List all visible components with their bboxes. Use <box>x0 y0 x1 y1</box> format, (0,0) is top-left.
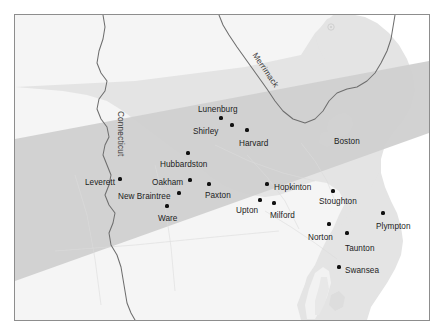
place-dot <box>245 128 248 131</box>
place-label: Boston <box>334 138 360 146</box>
place-label: Lunenburg <box>198 106 238 114</box>
place-label: Plympton <box>376 223 411 231</box>
place-label: Swansea <box>345 267 379 275</box>
place-label: Ware <box>158 215 177 223</box>
place-dot <box>331 189 334 192</box>
place-label: Paxton <box>205 192 231 200</box>
place-dot <box>219 116 222 119</box>
place-label: Hubbardston <box>160 161 207 169</box>
place-dot <box>177 191 180 194</box>
place-label: Milford <box>270 212 295 220</box>
place-label: Norton <box>308 234 333 242</box>
place-dot <box>186 151 189 154</box>
place-label: Upton <box>236 207 258 215</box>
place-label: Taunton <box>345 245 375 253</box>
place-dot <box>327 222 330 225</box>
place-dot <box>188 178 191 181</box>
place-label: Oakham <box>152 179 183 187</box>
place-dot <box>207 182 210 185</box>
place-dot <box>272 201 275 204</box>
place-label: Shirley <box>193 128 218 136</box>
place-dot <box>381 211 384 214</box>
place-label: Leverett <box>85 179 115 187</box>
place-dot <box>345 231 348 234</box>
place-label: Stoughton <box>319 198 357 206</box>
place-label: Hopkinton <box>274 184 311 192</box>
map-figure: LunenburgShirleyHarvardBostonHubbardston… <box>0 0 444 335</box>
place-dot <box>165 204 168 207</box>
place-dot <box>337 265 340 268</box>
place-dot <box>230 123 233 126</box>
place-dot <box>118 177 121 180</box>
river-label-connecticut: Connecticut <box>116 111 125 156</box>
place-label: Harvard <box>239 140 268 148</box>
place-dot <box>258 198 261 201</box>
place-label: New Braintree <box>118 193 171 201</box>
map-ring-marker-core <box>330 26 332 28</box>
place-dot <box>265 182 268 185</box>
map-frame: LunenburgShirleyHarvardBostonHubbardston… <box>14 14 430 321</box>
